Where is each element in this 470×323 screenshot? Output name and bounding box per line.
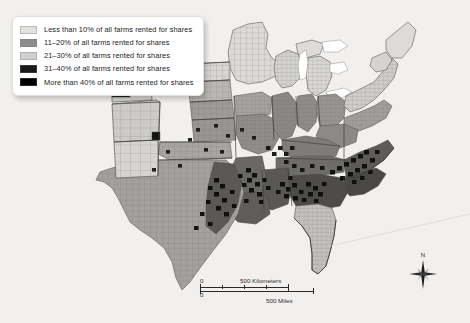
legend-swatch-icon <box>20 26 37 34</box>
legend-item: 21–30% of all farms rented for shares <box>20 49 194 62</box>
compass-star-icon <box>408 259 438 293</box>
scale-bar-km-tick <box>266 285 267 289</box>
legend-swatch-icon <box>20 39 37 47</box>
scale-bar-mi-rule <box>200 291 313 292</box>
legend-item: 31–40% of all farms rented for shares <box>20 63 194 76</box>
county-lines-nm <box>114 140 158 178</box>
legend-item-label: Less than 10% of all farms rented for sh… <box>44 26 192 33</box>
legend-item-label: More than 40% of all farms rented for sh… <box>44 79 194 86</box>
legend-swatch-icon <box>20 65 37 73</box>
legend-item-label: 11–20% of all farms rented for shares <box>44 39 169 46</box>
county-lines-ia <box>234 92 272 118</box>
legend-swatch-icon <box>20 78 37 86</box>
legend-item-label: 21–30% of all farms rented for shares <box>44 52 170 59</box>
map-legend: Less than 10% of all farms rented for sh… <box>12 16 204 96</box>
map-figure-page: Less than 10% of all farms rented for sh… <box>0 0 470 323</box>
scale-bar-km-caption: 500 Kilometers <box>240 278 281 284</box>
scale-bar-km-tick <box>244 285 245 289</box>
legend-item-label: 31–40% of all farms rented for shares <box>44 65 170 72</box>
county-lines-ne <box>190 100 234 120</box>
compass-rose: N <box>408 252 438 294</box>
compass-north-label: N <box>408 252 438 258</box>
legend-item: Less than 10% of all farms rented for sh… <box>20 23 194 36</box>
scale-bars: 0 500 Kilometers 0 500 Miles <box>200 278 320 303</box>
scale-bar-km-tick <box>222 285 223 289</box>
scale-bar-mi-caption: 500 Miles <box>266 298 292 304</box>
legend-item: More than 40% of all farms rented for sh… <box>20 76 194 89</box>
scale-bar-mi-tick <box>200 288 201 294</box>
scale-bar-miles: 0 500 Miles <box>200 290 320 303</box>
legend-swatch-icon <box>20 52 37 60</box>
scale-bar-mi-tick <box>313 288 314 294</box>
legend-item: 11–20% of all farms rented for shares <box>20 36 194 49</box>
